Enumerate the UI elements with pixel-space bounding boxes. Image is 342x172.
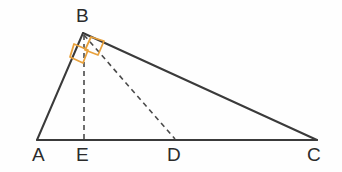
vertex-label-A: A <box>32 144 45 165</box>
geometry-figure: A B E D C <box>0 0 342 172</box>
geometry-canvas: A B E D C <box>0 0 342 172</box>
vertex-label-E: E <box>76 144 89 165</box>
internal-segments <box>84 35 175 139</box>
side-BC <box>83 33 317 140</box>
right-angle-mark-ABE <box>70 44 88 63</box>
vertex-label-B: B <box>76 5 89 26</box>
triangle-outline <box>37 33 317 140</box>
vertex-label-D: D <box>167 144 181 165</box>
vertex-label-C: C <box>307 144 321 165</box>
side-AB <box>37 33 83 140</box>
cevian-BD <box>84 35 175 139</box>
